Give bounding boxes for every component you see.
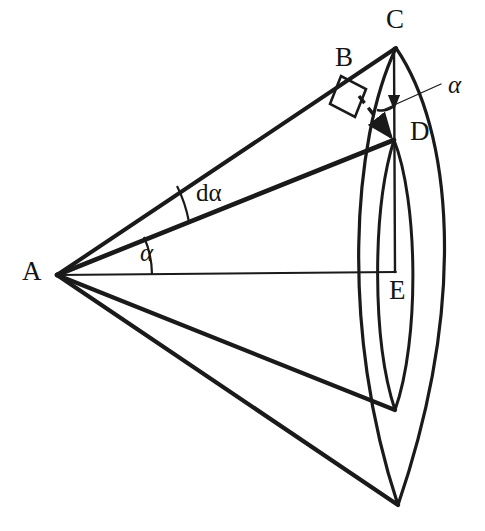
chord-C-to-E <box>394 48 395 272</box>
angle-label-alpha-at-C: α <box>448 72 461 97</box>
rays-from-apex-A <box>57 48 398 505</box>
dashed-perpendicular-B-to-D <box>359 96 391 137</box>
angle-label-alpha-at-A: α <box>140 240 153 265</box>
point-label-C: C <box>386 6 404 33</box>
angle-arc-alpha-at-C <box>377 84 441 110</box>
figure-canvas <box>0 0 485 531</box>
point-label-A: A <box>22 258 42 285</box>
ray-A-to-E-axis <box>57 272 396 275</box>
point-label-D: D <box>410 118 430 145</box>
alpha-leader-line <box>383 84 441 110</box>
point-label-E: E <box>389 277 406 304</box>
point-label-B: B <box>335 44 353 71</box>
angle-label-dalpha-at-A: dα <box>196 180 222 205</box>
geometry-figure: A B C D E α dα α <box>0 0 485 531</box>
